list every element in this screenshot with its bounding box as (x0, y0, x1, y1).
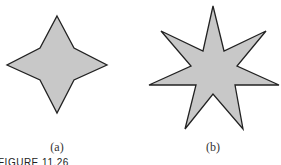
panel-b-label: (b) (206, 140, 220, 155)
figure-canvas (0, 0, 281, 165)
seven-point-star-shape (149, 6, 279, 129)
panel-a-label: (a) (50, 140, 63, 155)
figure-caption: FIGURE 11.26 (0, 157, 69, 165)
four-point-star-shape (7, 16, 107, 113)
